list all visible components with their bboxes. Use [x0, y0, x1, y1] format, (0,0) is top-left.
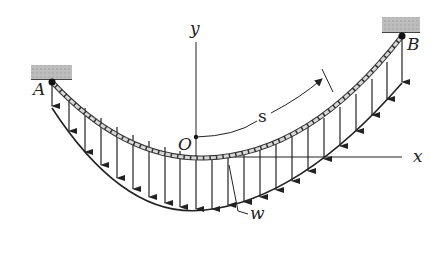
label-x: x — [413, 148, 423, 165]
w-leader — [229, 165, 248, 214]
label-a: A — [33, 81, 45, 98]
pin-a — [49, 79, 56, 86]
support-a — [31, 65, 72, 80]
label-o: O — [178, 136, 192, 153]
cable-diagram: y B A O s x w — [0, 0, 448, 259]
load-arrows — [52, 36, 402, 209]
support-b — [382, 17, 420, 33]
load-envelope — [52, 83, 402, 211]
label-s: s — [258, 108, 267, 125]
label-b: B — [407, 36, 420, 53]
label-w: w — [250, 205, 265, 222]
label-y: y — [190, 20, 200, 37]
pin-b — [399, 33, 406, 40]
arc-length-indicator — [196, 121, 257, 137]
cable — [52, 36, 402, 158]
diagram-graphic — [0, 0, 448, 259]
